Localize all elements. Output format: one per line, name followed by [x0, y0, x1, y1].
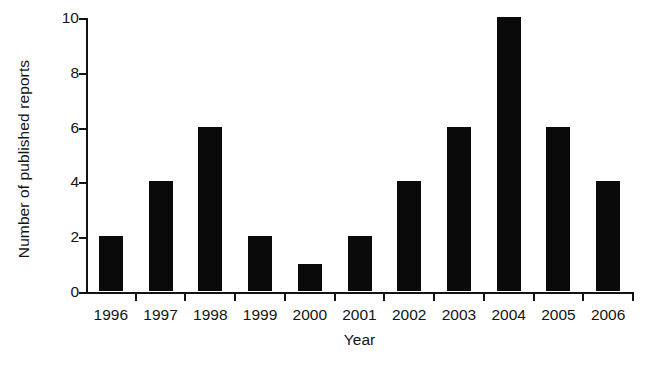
- x-tick-label-2005: 2005: [534, 306, 584, 324]
- bar-2001: [348, 236, 372, 291]
- bar-series: [86, 18, 633, 293]
- x-tick-label-1997: 1997: [136, 306, 186, 324]
- x-tick-mark: [334, 292, 336, 301]
- bar-1997: [149, 181, 173, 291]
- x-tick-mark: [582, 292, 584, 301]
- x-tick-label-2004: 2004: [484, 306, 534, 324]
- y-axis-title: Number of published reports: [11, 4, 37, 314]
- x-tick-label-2006: 2006: [583, 306, 633, 324]
- x-tick-label-2001: 2001: [335, 306, 385, 324]
- x-tick-mark: [383, 292, 385, 301]
- x-tick-mark: [533, 292, 535, 301]
- y-tick-label: 6: [70, 120, 79, 136]
- y-tick-label: 2: [70, 229, 79, 245]
- y-tick-label: 8: [70, 65, 79, 81]
- bar-2003: [447, 127, 471, 291]
- x-tick-mark: [184, 292, 186, 301]
- x-tick-mark: [483, 292, 485, 301]
- bar-2002: [397, 181, 421, 291]
- x-tick-label-2003: 2003: [434, 306, 484, 324]
- x-tick-label-1999: 1999: [235, 306, 285, 324]
- x-tick-mark: [632, 292, 634, 301]
- x-axis-title: Year: [86, 331, 633, 349]
- bar-1998: [198, 127, 222, 291]
- bar-1999: [248, 236, 272, 291]
- bar-2000: [298, 264, 322, 291]
- y-tick-label: 10: [62, 10, 79, 26]
- x-tick-label-1998: 1998: [185, 306, 235, 324]
- x-tick-mark: [234, 292, 236, 301]
- bar-chart-figure: Number of published reports 0246810 1996…: [0, 0, 646, 372]
- bar-2005: [546, 127, 570, 291]
- x-tick-mark: [284, 292, 286, 301]
- x-tick-mark: [135, 292, 137, 301]
- bar-2004: [497, 17, 521, 291]
- bar-2006: [596, 181, 620, 291]
- x-tick-label-1996: 1996: [86, 306, 136, 324]
- y-tick-label: 0: [70, 284, 79, 300]
- x-tick-label-2002: 2002: [384, 306, 434, 324]
- y-tick-label: 4: [70, 175, 79, 191]
- plot-area: 0246810 19961997199819992000200120022003…: [86, 18, 633, 293]
- x-tick-mark: [433, 292, 435, 301]
- x-tick-label-2000: 2000: [285, 306, 335, 324]
- bar-1996: [99, 236, 123, 291]
